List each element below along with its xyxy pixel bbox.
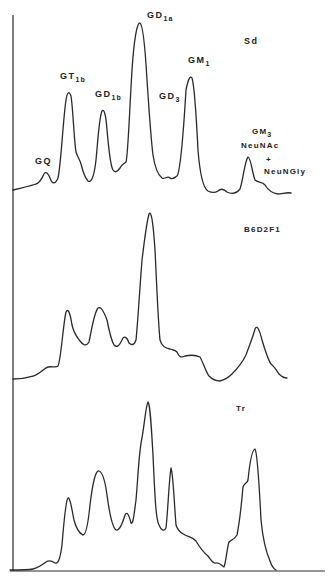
peak-label-plus: +: [266, 156, 272, 164]
panel-label-tr: Tr: [236, 405, 246, 413]
peak-label-gm3: GM3: [252, 128, 272, 138]
peak-label-text: GM: [188, 55, 206, 65]
peak-label-subscript: 3: [267, 131, 272, 138]
peak-label-gd1a: GD1a: [147, 11, 173, 22]
peak-label-neungly: NeuNGly: [264, 168, 306, 176]
peak-label-subscript: 1b: [76, 76, 86, 83]
panel-name-text: B6D2F1: [244, 225, 281, 234]
peak-label-gm1: GM1: [188, 56, 210, 67]
peak-label-text: GT: [60, 71, 76, 81]
peak-label-subscript: 1b: [112, 94, 122, 101]
peak-label-text: NeuNAc: [241, 141, 279, 150]
peak-label-text: GM: [252, 127, 267, 136]
densitometry-figure: Sd GQ GT1b GD1b GD1a GD3 GM1 GM3 NeuNAc …: [0, 0, 332, 581]
peak-label-gd3: GD3: [159, 92, 180, 103]
peak-label-gq: GQ: [35, 157, 52, 166]
panel-label-sd: Sd: [244, 37, 259, 46]
peak-label-subscript: 1a: [164, 15, 174, 22]
panel-label-b6d2f1: B6D2F1: [244, 226, 281, 234]
traces-canvas: [0, 0, 332, 581]
peak-label-subscript: 1: [206, 60, 211, 67]
peak-label-text: GQ: [35, 156, 52, 166]
peak-label-text: GD: [95, 89, 112, 99]
peak-label-gt1b: GT1b: [60, 72, 86, 83]
peak-label-text: GD: [147, 10, 164, 20]
trace-tr: [10, 402, 276, 570]
trace-sd: [13, 23, 291, 194]
trace-b6d2f1: [13, 213, 287, 381]
peak-label-text: NeuNGly: [264, 167, 306, 176]
panel-name-text: Tr: [236, 404, 246, 413]
peak-label-subscript: 3: [176, 96, 181, 103]
peak-label-text: +: [266, 155, 272, 164]
peak-label-gd1b: GD1b: [95, 90, 122, 101]
peak-label-neunac: NeuNAc: [241, 142, 279, 150]
panel-name-text: Sd: [244, 36, 259, 46]
peak-label-text: GD: [159, 91, 176, 101]
